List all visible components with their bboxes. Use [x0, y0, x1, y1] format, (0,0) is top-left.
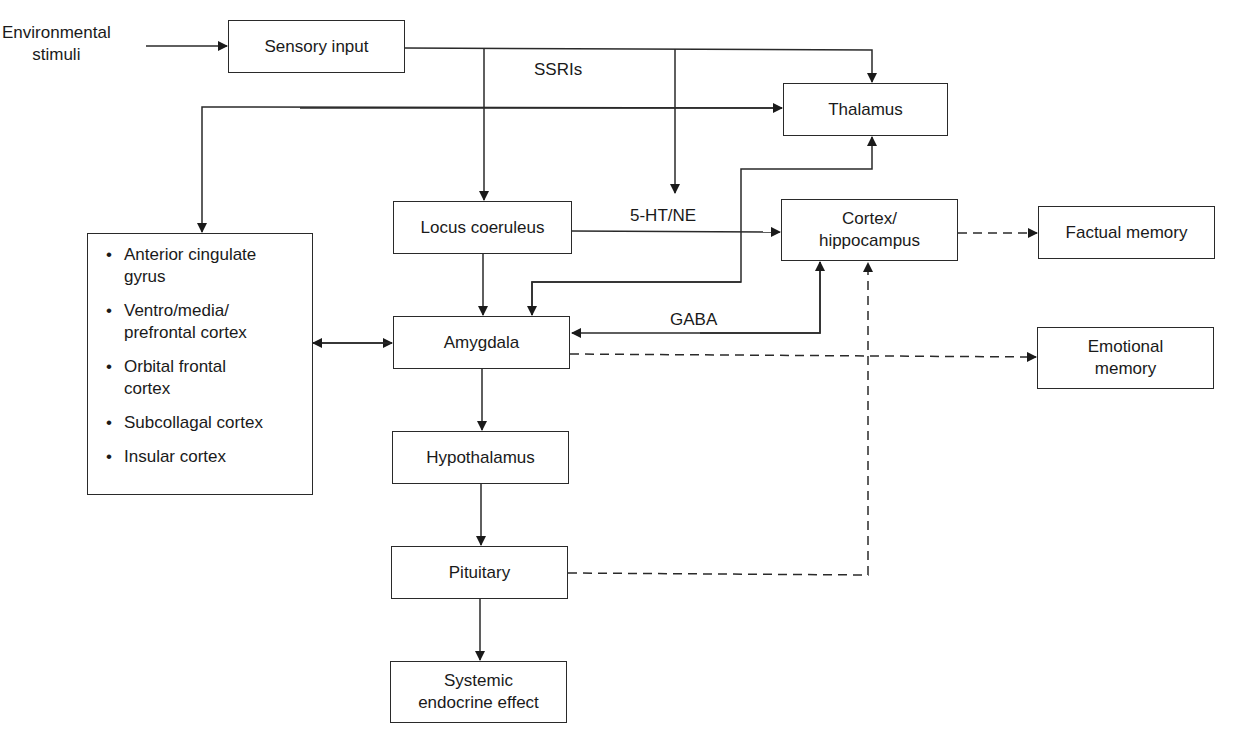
- cortical-regions-box: Anterior cingulate gyrus Ventro/media/ p…: [87, 233, 313, 495]
- environmental-stimuli-label: Environmental stimuli: [2, 22, 111, 66]
- list-item: Subcollagal cortex: [104, 412, 304, 434]
- edge-pituitary-to-cortex: [568, 263, 868, 575]
- cortical-regions-list: Anterior cingulate gyrus Ventro/media/ p…: [104, 244, 304, 468]
- node-emotional-memory: Emotional memory: [1037, 327, 1214, 389]
- edge-label-ssris: SSRIs: [534, 59, 582, 81]
- node-sensory-input: Sensory input: [228, 20, 405, 73]
- node-thalamus: Thalamus: [783, 83, 948, 136]
- node-amygdala: Amygdala: [393, 316, 570, 369]
- edge-amygdala-to-cortex-gaba: [700, 262, 820, 333]
- node-cortex-hippocampus: Cortex/ hippocampus: [781, 199, 958, 261]
- list-item: Orbital frontal cortex: [104, 356, 304, 400]
- list-item: Ventro/media/ prefrontal cortex: [104, 300, 304, 344]
- node-pituitary: Pituitary: [391, 546, 568, 599]
- edge-label-gaba: GABA: [670, 309, 717, 331]
- node-locus-coeruleus: Locus coeruleus: [393, 201, 572, 254]
- list-item: Insular cortex: [104, 446, 304, 468]
- list-item: Anterior cingulate gyrus: [104, 244, 304, 288]
- edge-amygdala-to-emotional: [570, 354, 1036, 357]
- node-hypothalamus: Hypothalamus: [392, 431, 569, 484]
- edge-sensory-to-thalamus: [405, 48, 872, 82]
- node-factual-memory: Factual memory: [1038, 206, 1215, 259]
- node-systemic-endocrine-effect: Systemic endocrine effect: [390, 661, 567, 723]
- edge-locus-to-cortex: [572, 231, 780, 232]
- edge-label-5ht-ne: 5-HT/NE: [630, 205, 696, 227]
